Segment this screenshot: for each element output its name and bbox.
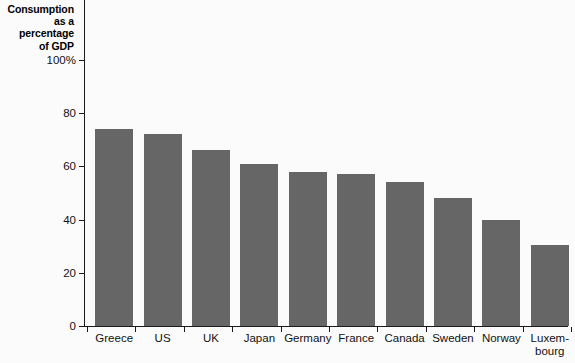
y-axis-title: Consumption as a percentage of GDP [0,3,74,52]
y-axis-title-line-2: as a [0,15,74,27]
bar [289,172,327,326]
bar [95,129,133,326]
y-tick-mark [79,220,84,221]
bar [337,174,375,326]
y-axis-title-line-1: Consumption [0,3,74,15]
plot-area: 020406080100% GreeceUSUKJapanGermanyFran… [84,0,568,327]
y-tick-label: 0 [70,320,76,332]
y-axis-title-line-4: of GDP [0,40,74,52]
y-tick-mark [79,166,84,167]
y-tick-label: 20 [63,267,76,279]
bar-chart: Consumption as a percentage of GDP 02040… [0,0,575,363]
y-axis-title-line-3: percentage [0,27,74,39]
bar [192,150,230,326]
y-tick-mark [79,113,84,114]
bar [240,164,278,326]
y-tick-label: 40 [63,214,76,226]
bar [531,245,569,326]
x-tick-label-line: Luxem- [518,332,575,345]
y-tick-label: 100% [47,54,76,66]
x-axis-line [84,326,568,327]
x-tick-label: Luxem-bourg [518,332,575,358]
bar [144,134,182,326]
bar [386,182,424,326]
y-axis-line [84,0,85,327]
bar [482,220,520,326]
y-tick-mark [79,326,84,327]
x-tick-label-line: bourg [518,345,575,358]
y-tick-mark [79,60,84,61]
y-tick-mark [79,273,84,274]
y-tick-label: 60 [63,160,76,172]
bar [434,198,472,326]
y-tick-label: 80 [63,107,76,119]
